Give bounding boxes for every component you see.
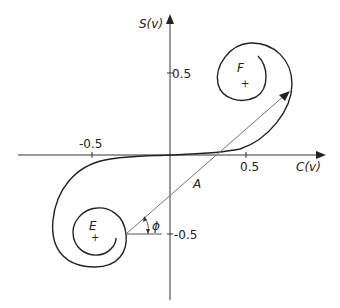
y-axis-arrow-icon — [166, 14, 174, 24]
point-f-marker: + — [241, 78, 249, 89]
point-e-label: E — [89, 219, 97, 233]
x-tick-label-neg: -0.5 — [79, 137, 102, 151]
angle-label: ϕ — [152, 219, 160, 233]
angle-arrow-bottom-icon — [146, 229, 150, 234]
y-axis-label: S(v) — [139, 17, 163, 31]
y-tick-label-neg: -0.5 — [174, 228, 197, 242]
phasor-label: A — [192, 177, 201, 191]
phasor-line — [126, 95, 285, 234]
y-tick-label-pos: 0.5 — [172, 67, 191, 81]
x-axis-arrow-icon — [316, 151, 326, 159]
x-axis-label: C(v) — [296, 160, 321, 174]
phasor-arrow-icon — [279, 91, 290, 101]
x-tick-label-pos: 0.5 — [240, 160, 259, 174]
point-f-label: F — [237, 61, 245, 75]
cornu-spiral-figure: -0.5 0.5 0.5 -0.5 S(v) C(v) A ϕ E + F + — [0, 0, 340, 308]
point-e-marker: + — [91, 232, 99, 243]
